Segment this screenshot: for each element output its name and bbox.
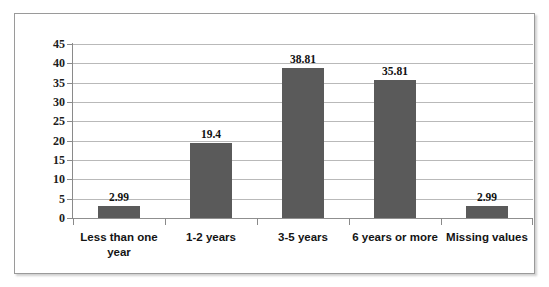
- bar-value-label: 2.99: [477, 191, 497, 203]
- y-axis-tick: [67, 63, 73, 64]
- bar[interactable]: [282, 68, 324, 218]
- x-axis-category-label: 3-5 years: [257, 230, 349, 245]
- y-axis-tick: [67, 121, 73, 122]
- bar-value-label: 2.99: [109, 191, 129, 203]
- y-axis-tick-label: 20: [25, 133, 65, 148]
- bar-group[interactable]: 35.81: [349, 44, 441, 218]
- x-axis-tick: [349, 218, 350, 225]
- y-axis-tick: [67, 218, 73, 219]
- y-axis-tick-label: 35: [25, 75, 65, 90]
- y-axis-tick: [67, 179, 73, 180]
- x-axis-tick: [165, 218, 166, 225]
- bar-series: 2.9919.438.8135.812.99: [73, 44, 533, 218]
- y-axis-tick-label: 5: [25, 191, 65, 206]
- bar[interactable]: [466, 206, 508, 218]
- bar-value-label: 19.4: [201, 128, 221, 140]
- bar[interactable]: [374, 80, 416, 218]
- y-axis-tick-label: 40: [25, 56, 65, 71]
- bar-value-label: 38.81: [290, 53, 316, 65]
- y-axis-labels: 454035302520151050: [25, 44, 65, 218]
- x-axis-tick: [532, 218, 533, 225]
- x-axis-labels: Less than one year1-2 years3-5 years6 ye…: [73, 230, 533, 274]
- x-axis-tick: [257, 218, 258, 225]
- bar-group[interactable]: 38.81: [257, 44, 349, 218]
- plot-area: 2.9919.438.8135.812.99: [73, 44, 533, 218]
- bar-group[interactable]: 19.4: [165, 44, 257, 218]
- bar-group[interactable]: 2.99: [73, 44, 165, 218]
- x-axis-category-label: 6 years or more: [349, 230, 441, 245]
- y-axis-tick: [67, 199, 73, 200]
- y-axis-tick: [67, 141, 73, 142]
- chart-page: 454035302520151050 2.9919.438.8135.812.9…: [0, 0, 549, 287]
- bar[interactable]: [98, 206, 140, 218]
- y-axis-tick-label: 0: [25, 211, 65, 226]
- bar[interactable]: [190, 143, 232, 218]
- x-axis-tick: [441, 218, 442, 225]
- x-axis-category-label: 1-2 years: [165, 230, 257, 245]
- y-axis-tick: [67, 44, 73, 45]
- x-axis-category-label: Missing values: [441, 230, 533, 245]
- y-axis-tick-label: 25: [25, 114, 65, 129]
- y-axis-tick: [67, 83, 73, 84]
- x-axis-category-label: Less than one year: [73, 230, 165, 260]
- bar-group[interactable]: 2.99: [441, 44, 533, 218]
- y-axis-tick-label: 15: [25, 153, 65, 168]
- bar-value-label: 35.81: [382, 65, 408, 77]
- x-axis-ticks: [73, 218, 533, 225]
- y-axis-tick: [67, 102, 73, 103]
- y-axis-tick-label: 30: [25, 95, 65, 110]
- chart-frame: 454035302520151050 2.9919.438.8135.812.9…: [14, 13, 535, 274]
- y-axis-tick-label: 45: [25, 37, 65, 52]
- x-axis-tick: [73, 218, 74, 225]
- y-axis-tick-label: 10: [25, 172, 65, 187]
- y-axis-tick: [67, 160, 73, 161]
